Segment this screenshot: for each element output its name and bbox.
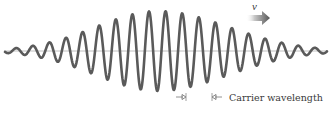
velocity-label: v [252, 0, 257, 12]
velocity-arrow: v [246, 0, 270, 25]
carrier-wavelength-left-marker [176, 93, 186, 101]
carrier-wavelength-label: Carrier wavelength [229, 92, 323, 103]
carrier-wavelength-right-marker [212, 93, 222, 101]
arrow-right-icon [246, 11, 270, 25]
carrier-wavelength-indicator: Carrier wavelength [176, 92, 323, 103]
wave-packet-diagram: v Carrier wavelength [0, 0, 331, 115]
